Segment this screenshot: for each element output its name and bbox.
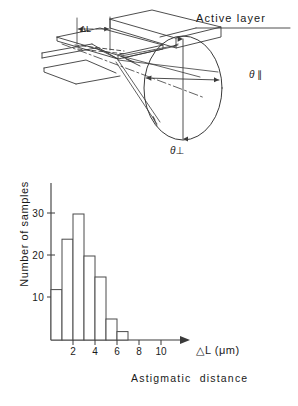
y-tick-label: 30 bbox=[26, 208, 44, 219]
y-tick-label: 20 bbox=[26, 250, 44, 261]
x-tick-label: 8 bbox=[132, 346, 146, 357]
y-axis-label: Number of samples bbox=[18, 164, 30, 304]
x-tick-label: 10 bbox=[154, 346, 168, 357]
histogram-bar bbox=[51, 290, 62, 340]
y-tick-label: 10 bbox=[26, 292, 44, 303]
delta-l-label: ΔL bbox=[80, 24, 91, 34]
x-tick-label: 4 bbox=[88, 346, 102, 357]
substrate-body bbox=[42, 44, 120, 84]
x-tick-label: 2 bbox=[66, 346, 80, 357]
theta-parallel-label: θ ∥ bbox=[249, 69, 262, 80]
figure-root bbox=[0, 0, 298, 406]
active-layer-label: Active layer bbox=[196, 12, 266, 24]
histogram-bar bbox=[62, 239, 73, 340]
active-layer-leader bbox=[160, 28, 290, 37]
histogram-chart bbox=[47, 183, 190, 345]
x-tick-marks bbox=[73, 340, 161, 345]
x-axis-caption: Astigmatic distance bbox=[131, 372, 248, 384]
beam-cone-rays bbox=[62, 44, 218, 124]
histogram-bar bbox=[84, 256, 95, 340]
theta-parallel-arrow bbox=[146, 78, 219, 80]
theta-perpendicular-label: θ⊥ bbox=[170, 145, 184, 156]
histogram-bar bbox=[73, 214, 84, 340]
x-tick-label: 6 bbox=[110, 346, 124, 357]
histogram-bars bbox=[51, 214, 128, 340]
histogram-bar bbox=[106, 319, 117, 340]
histogram-bar bbox=[95, 277, 106, 340]
x-axis-label: △L (μm) bbox=[196, 344, 240, 357]
histogram-bar bbox=[117, 332, 128, 340]
x-axis-arrowhead bbox=[180, 336, 190, 344]
